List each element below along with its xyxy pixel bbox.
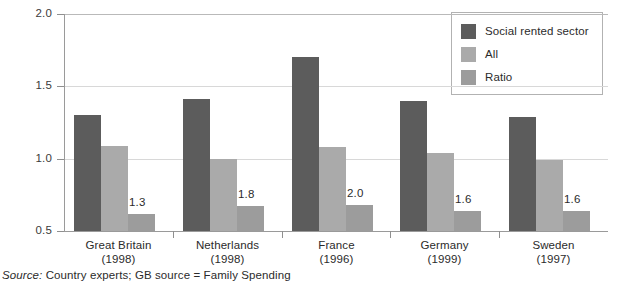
legend-label-all: All — [485, 48, 498, 60]
xtick-mark-4 — [499, 231, 500, 238]
xtick-mark-1 — [173, 231, 174, 238]
source-note: Source: Country experts; GB source = Fam… — [2, 269, 291, 281]
x-category-name: Great Britain — [86, 239, 152, 251]
bar-france-social-rented-sector — [292, 57, 319, 231]
y-axis-line — [64, 14, 65, 231]
data-label-germany: 1.6 — [455, 193, 472, 205]
bar-chart: Social rented sector All Ratio Source: C… — [0, 0, 618, 288]
legend-label-social-rented-sector: Social rented sector — [485, 25, 589, 37]
x-category-label-great-britain: Great Britain(1998) — [64, 238, 173, 266]
ytick-label-2.0: 2.0 — [10, 7, 52, 19]
x-category-name: Netherlands — [196, 239, 259, 251]
ytick-label-0.5: 0.5 — [10, 224, 52, 236]
ytick-mark-0.5 — [57, 231, 64, 232]
x-category-label-france: France(1996) — [282, 238, 391, 266]
x-axis-line — [64, 231, 608, 232]
bar-great-britain-ratio — [128, 214, 155, 231]
x-category-name: France — [318, 239, 354, 251]
legend-label-ratio: Ratio — [485, 71, 512, 83]
gridline-2.0 — [64, 14, 608, 15]
bar-netherlands-all — [210, 159, 237, 231]
bar-netherlands-ratio — [237, 206, 264, 231]
chart-legend: Social rented sector All Ratio — [451, 12, 603, 95]
ytick-mark-2.0 — [57, 14, 64, 15]
bar-france-all — [319, 147, 346, 231]
x-category-year: (1998) — [64, 252, 173, 266]
data-label-france: 2.0 — [347, 187, 364, 199]
source-label: Source: — [2, 269, 42, 281]
bar-germany-social-rented-sector — [400, 101, 427, 231]
x-category-label-netherlands: Netherlands(1998) — [173, 238, 282, 266]
legend-swatch-social-rented-sector — [461, 24, 476, 39]
bar-great-britain-social-rented-sector — [74, 115, 101, 231]
legend-item-all: All — [461, 44, 594, 64]
source-text: Country experts; GB source = Family Spen… — [42, 269, 290, 281]
legend-item-social-rented-sector: Social rented sector — [461, 21, 594, 41]
bar-sweden-social-rented-sector — [509, 117, 536, 231]
bar-germany-ratio — [454, 211, 481, 231]
legend-item-ratio: Ratio — [461, 67, 594, 87]
ytick-label-1.5: 1.5 — [10, 79, 52, 91]
x-category-year: (1997) — [499, 252, 608, 266]
ytick-label-1.0: 1.0 — [10, 152, 52, 164]
gridline-1.5 — [64, 86, 608, 87]
data-label-great-britain: 1.3 — [129, 196, 146, 208]
x-category-year: (1998) — [173, 252, 282, 266]
data-label-sweden: 1.6 — [564, 193, 581, 205]
bar-netherlands-social-rented-sector — [183, 99, 210, 231]
ytick-mark-1.0 — [57, 159, 64, 160]
bar-france-ratio — [346, 205, 373, 231]
data-label-netherlands: 1.8 — [238, 188, 255, 200]
x-category-year: (1996) — [282, 252, 391, 266]
x-category-year: (1999) — [390, 252, 499, 266]
bar-sweden-ratio — [563, 211, 590, 231]
x-category-label-germany: Germany(1999) — [390, 238, 499, 266]
x-category-name: Germany — [421, 239, 469, 251]
ytick-mark-1.5 — [57, 86, 64, 87]
legend-swatch-ratio — [461, 70, 476, 85]
legend-swatch-all — [461, 47, 476, 62]
x-category-label-sweden: Sweden(1997) — [499, 238, 608, 266]
bar-sweden-all — [536, 160, 563, 231]
bar-germany-all — [427, 153, 454, 231]
bar-great-britain-all — [101, 146, 128, 231]
x-category-name: Sweden — [532, 239, 574, 251]
xtick-mark-2 — [282, 231, 283, 238]
xtick-mark-3 — [390, 231, 391, 238]
